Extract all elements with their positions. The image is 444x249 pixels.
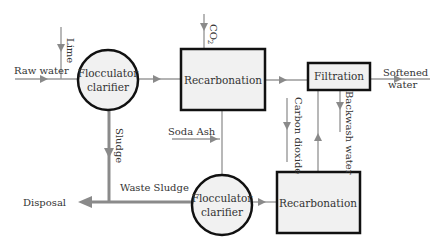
filtration-label: Filtration	[314, 70, 364, 82]
waste-sludge-label: Waste Sludge	[120, 182, 189, 193]
flocc2-label-line2: clarifier	[201, 206, 244, 218]
flocc2-recarb2-arrow-icon	[258, 198, 266, 206]
raw-water-arrow-icon	[40, 75, 48, 83]
recarb2-label: Recarbonation	[279, 197, 357, 209]
flocculator-clarifier-1: Flocculator clarifier	[78, 50, 140, 110]
flocc1-label-line2: clarifier	[87, 81, 130, 93]
disposal-arrow-icon	[78, 196, 92, 208]
lime-label: Lime	[65, 38, 76, 63]
recarbonation-1: Recarbonation	[181, 49, 265, 110]
flocc2-label-line1: Flocculator	[192, 192, 254, 204]
raw-water-label: Raw water	[14, 65, 69, 76]
flocculator-clarifier-2: Flocculator clarifier	[192, 175, 254, 235]
carbon-dioxide-label: Carbon dioxide	[293, 97, 304, 174]
flocc1-recarb1-arrow-icon	[153, 75, 161, 83]
soda-ash-label: Soda Ash	[168, 126, 216, 137]
recarbonation-2: Recarbonation	[277, 172, 360, 233]
sludge-arrow-icon	[104, 148, 114, 158]
softened-water-label-line1: Softened	[383, 67, 429, 78]
filtration: Filtration	[308, 63, 370, 90]
lime-arrow-icon	[57, 44, 65, 52]
co2-arrow-icon	[200, 23, 208, 31]
disposal-label: Disposal	[23, 197, 66, 208]
sludge-label: Sludge	[114, 128, 125, 163]
co2-label: CO2	[206, 24, 219, 44]
flocc1-label-line1: Flocculator	[78, 67, 140, 79]
backwash-water-arrow-icon	[336, 102, 344, 110]
recarb1-filtration-arrow-icon	[279, 76, 287, 84]
carbon-dioxide-arrow-icon	[283, 122, 291, 130]
softened-water-label-line2: water	[388, 79, 417, 90]
process-diagram: Flocculator clarifier Recarbonation Filt…	[0, 0, 444, 249]
recarb2-filtration-arrow-icon	[314, 133, 322, 141]
recarb1-label: Recarbonation	[184, 74, 262, 86]
backwash-water-label: Backwash water	[344, 91, 355, 175]
